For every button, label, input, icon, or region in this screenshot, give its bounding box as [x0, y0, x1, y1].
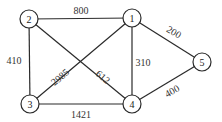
node-5: 5	[193, 53, 211, 71]
edge-weight-label: 400	[163, 82, 181, 99]
edge-2-1	[29, 18, 132, 19]
edge-weight-label: 800	[74, 5, 89, 16]
nodes-layer: 12345	[20, 9, 211, 113]
edge-weight-label: 410	[7, 55, 22, 66]
node-3: 3	[21, 95, 39, 113]
edge-weight-label: 612	[94, 68, 113, 86]
node-label: 3	[28, 99, 33, 110]
node-2: 2	[20, 10, 38, 28]
edge-weight-label: 310	[136, 57, 151, 68]
node-label: 4	[130, 99, 135, 110]
edge-weight-label: 1421	[71, 109, 91, 120]
edge-1-5	[132, 18, 202, 62]
node-4: 4	[123, 95, 141, 113]
node-label: 1	[130, 13, 135, 24]
node-label: 5	[200, 57, 205, 68]
edge-weight-label: 200	[165, 23, 183, 40]
node-1: 1	[123, 9, 141, 27]
edge-2-3	[29, 19, 30, 104]
graph-diagram: 80041061229853102001421400 12345	[0, 0, 222, 122]
node-label: 2	[27, 14, 32, 25]
edge-weight-label: 2985	[49, 66, 71, 87]
